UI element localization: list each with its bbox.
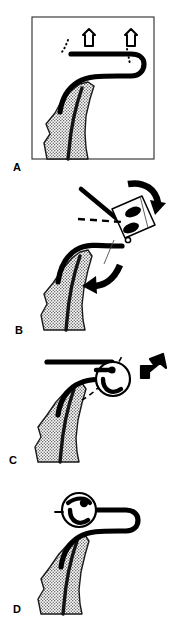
surgical-technique-figure bbox=[0, 0, 176, 623]
panel-label-a: A bbox=[13, 162, 21, 173]
panel-c-inset-dot bbox=[108, 366, 115, 373]
panel-label-b: B bbox=[15, 325, 23, 336]
figure-container: A B C D bbox=[0, 0, 176, 623]
panel-label-d: D bbox=[13, 604, 21, 615]
panel-label-c: C bbox=[9, 455, 17, 466]
